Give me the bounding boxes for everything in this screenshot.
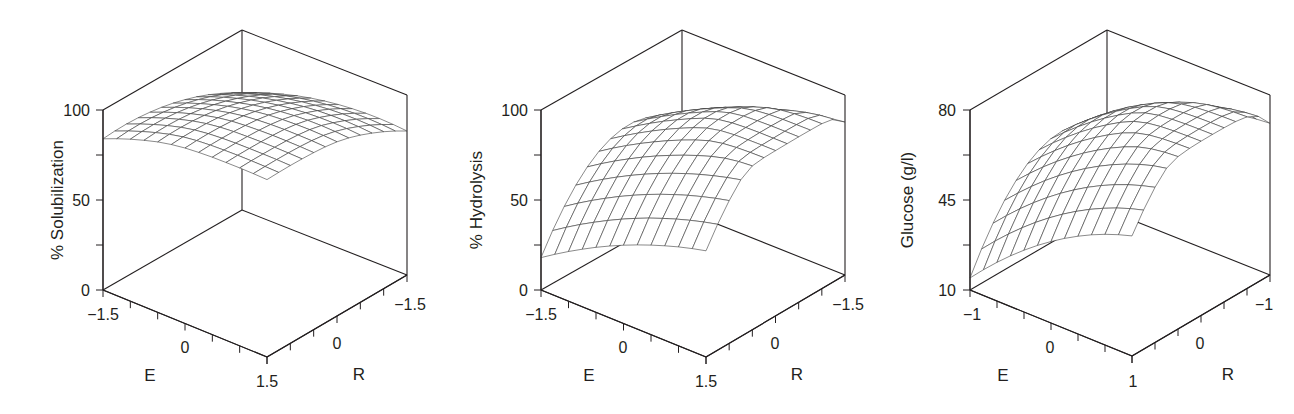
r-tick-label: −1 [1255,296,1273,313]
z-tick-label: 0 [81,282,90,299]
surface-mesh [103,93,407,180]
z-axis-label: % Solubilization [48,140,67,260]
z-tick-label: 100 [501,102,528,119]
figure: 050100−1.501.50−1.5ER% Solubilization 05… [0,0,1294,414]
z-axis-label: % Hydrolysis [467,151,486,249]
z-axis-label: Glucose (g/l) [898,152,917,248]
e-axis-label: E [144,366,155,385]
floor-back-left-edge [103,210,242,290]
e-tick-label: 0 [181,339,190,356]
panel-solubilization: 050100−1.501.50−1.5ER% Solubilization [48,30,426,390]
e-tick-label: 0 [1046,339,1055,356]
top-left-edge [970,30,1107,110]
panel-glucose: 104580−1010−1ERGlucose (g/l) [898,30,1273,390]
r-axis-label: R [791,365,803,384]
r-axis-label: R [1222,365,1234,384]
e-axis-label: E [997,366,1008,385]
r-axis-label: R [353,365,365,384]
top-right-edge [242,30,407,95]
r-tick-label: 1.5 [256,373,278,390]
panel-hydrolysis: 050100−1.501.50−1.5ER% Hydrolysis [467,30,864,390]
r-tick-label: 1.5 [695,373,717,390]
z-tick-label: 100 [63,102,90,119]
e-tick-label: −1 [963,306,981,323]
z-tick-label: 50 [510,192,528,209]
z-tick-label: 0 [519,282,528,299]
top-right-edge [1107,30,1270,95]
e-tick-label: −1.5 [525,306,557,323]
e-axis-label: E [583,366,594,385]
r-tick-label: 0 [1196,335,1205,352]
r-tick-label: −1.5 [394,296,426,313]
r-tick-label: 0 [771,335,780,352]
top-left-edge [541,30,682,110]
z-tick-label: 45 [938,192,956,209]
e-tick-label: −1.5 [87,306,119,323]
z-tick-label: 50 [72,192,90,209]
z-tick-label: 10 [938,282,956,299]
floor-back-right-edge [242,210,407,275]
r-tick-label: 1 [1129,373,1138,390]
r-tick-label: 0 [333,335,342,352]
z-tick-label: 80 [938,102,956,119]
e-tick-label: 0 [619,339,628,356]
top-right-edge [682,30,845,95]
surface-mesh [541,107,845,258]
surface-mesh [970,102,1270,278]
r-tick-label: −1.5 [832,296,864,313]
